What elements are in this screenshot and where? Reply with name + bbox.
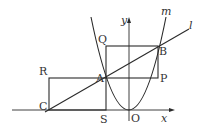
point-Q-label: Q	[98, 33, 107, 46]
point-P-label: P	[160, 72, 168, 85]
point-S-label: S	[100, 113, 108, 126]
line-l-label: l	[189, 19, 193, 32]
point-B-label: B	[159, 45, 167, 58]
y-axis	[127, 17, 131, 121]
x-axis-label: x	[161, 112, 168, 125]
line-l	[45, 29, 189, 112]
math-diagram: y x O m l A B C P Q R S	[0, 0, 207, 131]
curve-m-label: m	[161, 5, 171, 18]
origin-label: O	[131, 112, 140, 125]
point-A-label: A	[95, 72, 105, 85]
point-C-label: C	[39, 100, 47, 113]
point-R-label: R	[39, 65, 48, 78]
y-axis-label: y	[120, 14, 128, 27]
